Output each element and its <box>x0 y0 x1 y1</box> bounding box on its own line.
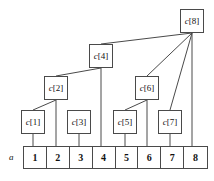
tree-node-c7-index: [7] <box>167 118 178 127</box>
array-cell-7: 7 <box>161 147 184 168</box>
array-cell-4: 4 <box>93 147 116 168</box>
tree-node-c6-index: [6] <box>144 84 155 93</box>
tree-node-c6: c[6] <box>135 76 159 100</box>
array-cell-3: 3 <box>70 147 93 168</box>
tree-node-c8: c[8] <box>180 9 204 33</box>
tree-node-c2-index: [2] <box>53 84 64 93</box>
tree-node-c5-index: [5] <box>122 118 133 127</box>
array-cell-2: 2 <box>47 147 70 168</box>
tree-node-c5: c[5] <box>113 110 137 134</box>
edge-c8-to-c4 <box>101 33 192 44</box>
tree-node-c2: c[2] <box>44 76 68 100</box>
edge-c4-to-c2 <box>56 68 101 76</box>
tree-node-c3-index: [3] <box>76 118 87 127</box>
edge-c6-to-c5 <box>125 100 147 110</box>
tree-node-c1-index: [1] <box>30 118 41 127</box>
edge-c8-to-c6 <box>147 33 192 76</box>
array-cell-6: 6 <box>138 147 161 168</box>
tree-node-c4: c[4] <box>89 44 113 68</box>
fenwick-tree-figure: a 12345678 c[1]c[2]c[3]c[4]c[5]c[6]c[7]c… <box>0 0 214 181</box>
edge-c2-to-c1 <box>33 100 56 110</box>
tree-node-c4-index: [4] <box>98 52 109 61</box>
tree-node-c7: c[7] <box>158 110 182 134</box>
tree-node-c8-index: [8] <box>189 17 200 26</box>
tree-node-c3: c[3] <box>67 110 91 134</box>
array-cell-1: 1 <box>24 147 47 168</box>
edge-c8-to-c7 <box>170 33 192 110</box>
array-cell-8: 8 <box>184 147 207 168</box>
array-label: a <box>9 152 14 162</box>
array-cell-5: 5 <box>116 147 139 168</box>
array-row: 12345678 <box>23 146 208 169</box>
tree-node-c1: c[1] <box>21 110 45 134</box>
